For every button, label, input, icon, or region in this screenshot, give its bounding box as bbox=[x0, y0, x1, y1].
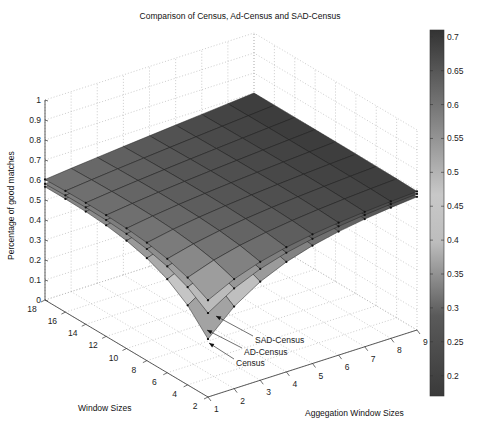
z-tick-label: 0.2 bbox=[29, 255, 41, 265]
y-tick-label: 6 bbox=[152, 377, 157, 387]
colorbar-tick-label: 0.25 bbox=[447, 337, 464, 347]
x-tick-label: 3 bbox=[266, 387, 271, 397]
z-tick-label: 0.8 bbox=[29, 135, 41, 145]
z-tick-label: 0.4 bbox=[29, 215, 41, 225]
z-tick-label: 0.7 bbox=[29, 155, 41, 165]
x-tick-label: 9 bbox=[423, 337, 428, 347]
x-tick-label: 6 bbox=[345, 362, 350, 372]
z-tick-label: 0.9 bbox=[29, 115, 41, 125]
colorbar-tick-label: 0.2 bbox=[447, 371, 459, 381]
x-tick-label: 8 bbox=[397, 345, 402, 355]
colorbar bbox=[430, 30, 444, 396]
z-tick-label: 1 bbox=[36, 95, 41, 105]
x-tick-label: 7 bbox=[371, 354, 376, 364]
surface-plot: 1234567892468101214161800.10.20.30.40.50… bbox=[0, 0, 480, 433]
y-tick-label: 14 bbox=[68, 328, 78, 338]
colorbar-tick-label: 0.4 bbox=[447, 235, 459, 245]
x-tick-label: 5 bbox=[319, 371, 324, 381]
x-tick-label: 4 bbox=[292, 379, 297, 389]
y-tick-label: 8 bbox=[132, 365, 137, 375]
z-tick-label: 0.5 bbox=[29, 195, 41, 205]
surfaces bbox=[44, 93, 418, 340]
annotation-label: Census bbox=[236, 358, 265, 368]
y-tick-label: 12 bbox=[88, 340, 98, 350]
colorbar-tick-label: 0.35 bbox=[447, 269, 464, 279]
colorbar-tick-label: 0.55 bbox=[447, 133, 464, 143]
colorbar-tick-label: 0.65 bbox=[447, 66, 464, 76]
annotations: SAD-CensusAD-CensusCensus bbox=[207, 316, 304, 368]
y-tick-label: 10 bbox=[109, 353, 119, 363]
arrow-icon bbox=[209, 343, 214, 347]
annotation-label: SAD-Census bbox=[255, 335, 304, 345]
x-tick-label: 2 bbox=[240, 396, 245, 406]
y-tick-label: 18 bbox=[27, 304, 37, 314]
y-tick-label: 16 bbox=[48, 316, 58, 326]
colorbar-tick-label: 0.7 bbox=[447, 32, 459, 42]
x-tick-label: 1 bbox=[214, 404, 219, 414]
y-tick-label: 2 bbox=[193, 401, 198, 411]
annotation-label: AD-Census bbox=[244, 347, 287, 357]
colorbar-tick-label: 0.5 bbox=[447, 167, 459, 177]
z-tick-label: 0.6 bbox=[29, 175, 41, 185]
z-tick-label: 0.3 bbox=[29, 235, 41, 245]
colorbar-tick-label: 0.45 bbox=[447, 201, 464, 211]
colorbar-tick-label: 0.3 bbox=[447, 303, 459, 313]
colorbar-tick-label: 0.6 bbox=[447, 100, 459, 110]
z-tick-label: 0 bbox=[36, 295, 41, 305]
y-tick-label: 4 bbox=[172, 389, 177, 399]
z-tick-label: 0.1 bbox=[29, 275, 41, 285]
